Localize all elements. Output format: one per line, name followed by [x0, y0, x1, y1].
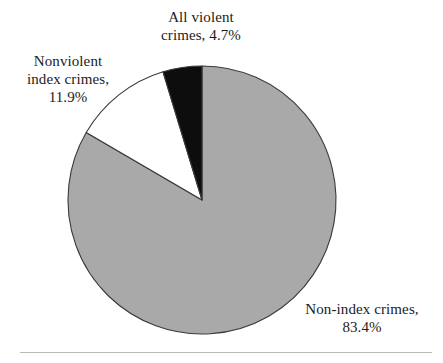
- pie-label-nonviolent-index-crimes-line2: index crimes,: [8, 70, 128, 88]
- pie-chart-figure: All violent crimes, 4.7% Nonviolent inde…: [0, 0, 443, 363]
- pie-label-all-violent-crimes-line1: All violent: [120, 8, 282, 26]
- pie-label-non-index-crimes: Non-index crimes, 83.4%: [288, 300, 436, 336]
- pie-label-nonviolent-index-crimes-line1: Nonviolent: [8, 52, 128, 70]
- pie-label-non-index-crimes-line2: 83.4%: [288, 318, 436, 336]
- bottom-divider-rule: [20, 352, 432, 353]
- pie-label-all-violent-crimes-line2: crimes, 4.7%: [120, 26, 282, 44]
- pie-label-nonviolent-index-crimes: Nonviolent index crimes, 11.9%: [8, 52, 128, 106]
- pie-label-nonviolent-index-crimes-line3: 11.9%: [8, 88, 128, 106]
- pie-label-all-violent-crimes: All violent crimes, 4.7%: [120, 8, 282, 44]
- pie-label-non-index-crimes-line1: Non-index crimes,: [288, 300, 436, 318]
